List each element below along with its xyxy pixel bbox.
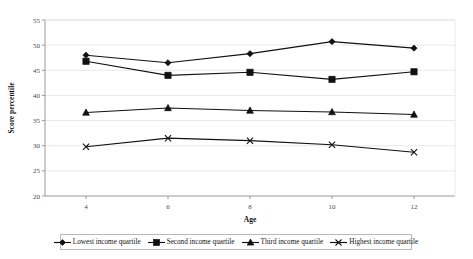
y-axis-title: Score percentile (7, 82, 16, 134)
y-tick-label: 25 (33, 167, 41, 175)
y-tick-label: 50 (33, 42, 41, 50)
legend-item[interactable]: Third income quartile (242, 238, 324, 247)
plot-area: 20253035404550554681012AgeScore percenti… (0, 0, 473, 232)
legend-label: Lowest income quartile (73, 238, 141, 246)
x-tick-label: 4 (84, 203, 88, 211)
legend-label: Highest income quartile (349, 238, 418, 246)
legend-marker-square-icon (148, 238, 165, 247)
chart-legend: Lowest income quartileSecond income quar… (60, 234, 412, 250)
x-tick-label: 6 (166, 203, 170, 211)
legend-label: Third income quartile (261, 238, 324, 246)
x-tick-label: 12 (411, 203, 419, 211)
marker-square (411, 69, 417, 75)
marker-square (247, 69, 253, 75)
marker-square (83, 58, 89, 64)
series-third-income-quartile (83, 104, 418, 117)
legend-marker-x-icon (330, 238, 347, 247)
legend-marker-diamond-icon (54, 238, 71, 247)
legend-item[interactable]: Highest income quartile (330, 238, 418, 247)
marker-diamond (83, 52, 89, 58)
legend-marker-triangle-icon (242, 238, 259, 247)
series-highest-income-quartile (83, 135, 417, 155)
y-tick-label: 35 (33, 117, 41, 125)
line-chart: 20253035404550554681012AgeScore percenti… (0, 0, 473, 259)
marker-square (329, 76, 335, 82)
marker-diamond (411, 45, 417, 51)
marker-diamond (165, 60, 171, 66)
marker-diamond (247, 51, 253, 57)
marker-square (153, 239, 159, 245)
legend-item[interactable]: Lowest income quartile (54, 238, 141, 247)
marker-diamond (59, 239, 65, 245)
legend-label: Second income quartile (167, 238, 235, 246)
y-tick-label: 45 (33, 67, 41, 75)
series-lowest-income-quartile (83, 39, 417, 66)
x-tick-label: 10 (329, 203, 337, 211)
y-tick-label: 55 (33, 17, 41, 25)
y-tick-label: 30 (33, 142, 41, 150)
marker-diamond (329, 39, 335, 45)
y-tick-label: 40 (33, 92, 41, 100)
y-tick-label: 20 (33, 193, 41, 201)
x-tick-label: 8 (248, 203, 252, 211)
legend-item[interactable]: Second income quartile (148, 238, 235, 247)
x-axis-title: Age (244, 215, 257, 224)
marker-square (165, 72, 171, 78)
